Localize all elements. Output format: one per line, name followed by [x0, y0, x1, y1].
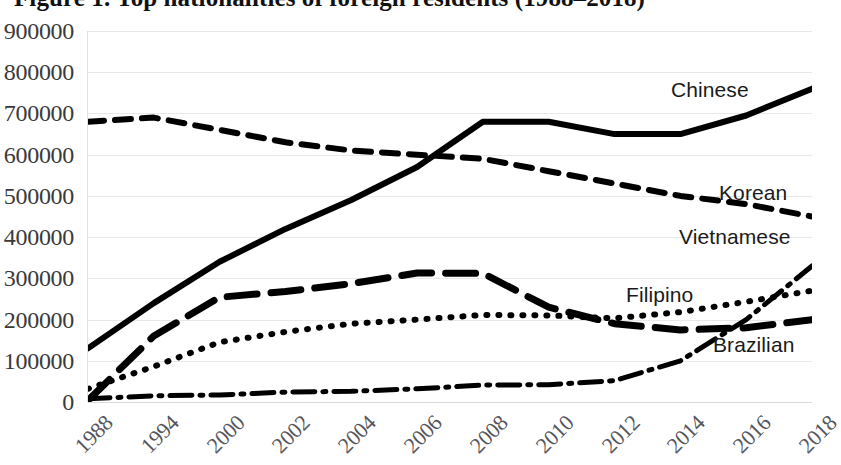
y-axis: 0100000200000300000400000500000600000700…: [0, 31, 82, 402]
x-axis: 1988199420002002200420062008201020122014…: [88, 402, 812, 465]
y-axis-tick-label: 100000: [4, 347, 74, 374]
x-axis-tick-label: 1994: [136, 410, 185, 459]
series-label-korean: Korean: [719, 181, 787, 205]
y-axis-tick-label: 600000: [4, 141, 74, 168]
y-axis-tick-label: 800000: [4, 59, 74, 86]
x-axis-tick-label: 2016: [728, 410, 777, 459]
x-axis-tick-label: 2010: [530, 410, 579, 459]
y-axis-tick-label: 0: [62, 389, 74, 416]
x-axis-tick-label: 1988: [70, 410, 119, 459]
x-axis-tick-label: 2018: [794, 410, 841, 459]
x-axis-tick-label: 2004: [333, 410, 382, 459]
x-axis-tick-label: 2012: [596, 410, 645, 459]
x-axis-tick-label: 2000: [201, 410, 250, 459]
series-label-vietnamese: Vietnamese: [679, 225, 791, 249]
y-axis-tick-label: 500000: [4, 182, 74, 209]
x-axis-tick-label: 2006: [399, 410, 448, 459]
chart-title: Figure 1. Top nationalities of foreign r…: [14, 0, 804, 12]
x-axis-tick-label: 2002: [267, 410, 316, 459]
series-line-filipino: [88, 291, 812, 389]
y-axis-tick-label: 700000: [4, 100, 74, 127]
y-axis-tick-label: 200000: [4, 306, 74, 333]
series-label-filipino: Filipino: [626, 283, 693, 307]
series-line-korean: [88, 118, 812, 217]
series-label-brazilian: Brazilian: [713, 333, 794, 357]
y-axis-tick-label: 400000: [4, 224, 74, 251]
y-axis-tick-label: 900000: [4, 18, 74, 45]
x-axis-tick-label: 2014: [662, 410, 711, 459]
y-axis-tick-label: 300000: [4, 265, 74, 292]
x-axis-tick-label: 2008: [465, 410, 514, 459]
series-line-brazilian: [88, 273, 812, 400]
series-label-chinese: Chinese: [671, 78, 749, 102]
